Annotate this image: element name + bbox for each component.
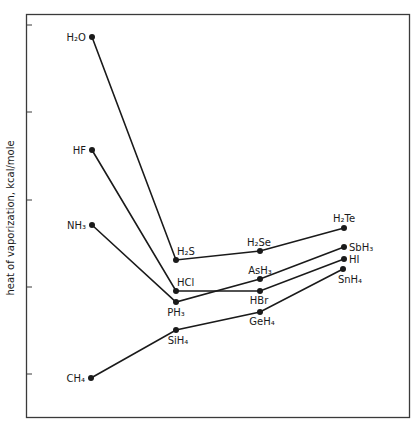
- label-ash3: AsH₃: [248, 265, 272, 276]
- label-nh3: NH₃: [67, 220, 86, 231]
- data-point-hbr: [257, 288, 263, 294]
- chart-canvas: heat of vaporization, kcal/mole H₂O HF N…: [0, 0, 419, 431]
- label-h2o: H₂O: [67, 32, 87, 43]
- series-line-group17: [92, 150, 344, 291]
- series-line-group16: [92, 37, 344, 260]
- label-hcl: HCl: [177, 277, 194, 288]
- label-ph3: PH₃: [167, 307, 185, 318]
- data-point-sih4: [173, 327, 179, 333]
- data-point-snh4: [340, 266, 346, 272]
- data-point-ch4: [88, 375, 94, 381]
- label-sih4: SiH₄: [168, 335, 189, 346]
- data-point-nh3: [89, 222, 95, 228]
- data-point-h2s: [173, 257, 179, 263]
- label-hi: HI: [349, 254, 359, 265]
- label-ch4: CH₄: [66, 373, 85, 384]
- data-point-geh4: [257, 309, 263, 315]
- y-axis-label: heat of vaporization, kcal/mole: [5, 140, 16, 295]
- data-point-ph3: [173, 299, 179, 305]
- label-geh4: GeH₄: [249, 316, 274, 327]
- data-point-h2te: [341, 225, 347, 231]
- data-point-sbh3: [341, 244, 347, 250]
- label-h2te: H₂Te: [333, 213, 355, 224]
- label-h2se: H₂Se: [247, 237, 271, 248]
- label-hbr: HBr: [250, 295, 269, 306]
- series-line-group15: [92, 225, 344, 302]
- label-sbh3: SbH₃: [349, 242, 373, 253]
- data-point-hf: [89, 147, 95, 153]
- data-point-ash3: [257, 276, 263, 282]
- label-snh4: SnH₄: [338, 274, 362, 285]
- y-axis-ticks: [27, 25, 32, 374]
- data-point-h2o: [89, 34, 95, 40]
- data-point-hi: [341, 256, 347, 262]
- data-point-hcl: [173, 288, 179, 294]
- label-h2s: H₂S: [177, 246, 195, 257]
- series-line-group14: [91, 269, 343, 378]
- label-hf: HF: [73, 145, 87, 156]
- data-point-h2se: [257, 248, 263, 254]
